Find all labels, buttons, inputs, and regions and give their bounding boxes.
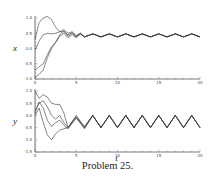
y-axis-label: y xyxy=(12,116,17,126)
y-tick-label: 1.0 xyxy=(26,15,33,20)
series-line xyxy=(35,33,200,77)
series-line xyxy=(35,16,200,39)
y-tick-label: 0.0 xyxy=(26,46,33,51)
y-tick-label: 1.0 xyxy=(26,88,33,93)
x-tick-label: 10 xyxy=(115,80,121,85)
y-tick-label: -1.5 xyxy=(24,149,32,154)
y-tick-label: 0.5 xyxy=(26,31,33,36)
figure-caption: Problem 25. xyxy=(0,160,215,171)
x-tick-label: 5 xyxy=(75,80,78,85)
x-tick-label: 5 xyxy=(75,153,78,158)
y-panel: 1.00.50.0-0.5-1.0-1.505101520yt xyxy=(12,88,203,163)
axes: 1.00.50.0-0.5-1.005101520x xyxy=(12,15,203,85)
y-tick-label: -1.0 xyxy=(24,76,32,81)
chart-figure: 1.00.50.0-0.5-1.005101520x 1.00.50.0-0.5… xyxy=(0,0,215,184)
x-tick-label: 15 xyxy=(156,80,162,85)
series-line xyxy=(35,108,200,140)
x-tick-label: 0 xyxy=(34,80,37,85)
y-tick-label: -0.5 xyxy=(24,125,32,130)
axes: 1.00.50.0-0.5-1.0-1.505101520yt xyxy=(12,88,203,163)
x-tick-label: 0 xyxy=(34,153,37,158)
series-line xyxy=(35,91,200,128)
y-tick-label: -1.0 xyxy=(24,137,32,142)
y-axis-label: x xyxy=(12,43,17,53)
y-tick-label: 0.0 xyxy=(26,113,33,118)
y-tick-label: 0.5 xyxy=(26,101,33,106)
x-tick-label: 20 xyxy=(197,80,203,85)
y-tick-label: -0.5 xyxy=(24,61,32,66)
x-tick-label: 15 xyxy=(156,153,162,158)
x-tick-label: 20 xyxy=(197,153,203,158)
x-panel: 1.00.50.0-0.5-1.005101520x xyxy=(12,15,203,85)
